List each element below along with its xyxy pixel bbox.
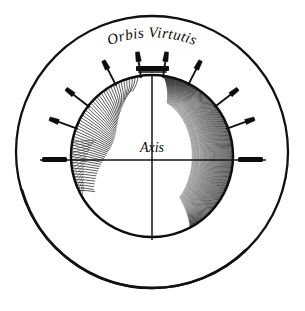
rod-head xyxy=(49,117,59,125)
rod-head xyxy=(102,60,110,71)
pivot-block-left xyxy=(42,157,67,162)
rod-head xyxy=(194,60,202,71)
rod-head xyxy=(163,52,169,62)
outer-ring-label: Orbis Virtutis xyxy=(105,24,199,48)
outer-ring-label-textpath: Orbis Virtutis xyxy=(105,24,199,48)
pivot-block-right xyxy=(238,157,263,162)
rod-head xyxy=(135,52,141,62)
engraving-figure: Orbis Virtutis Axis xyxy=(0,0,305,311)
pole-cap-bar-shadow xyxy=(138,71,167,73)
axis-label: Axis xyxy=(139,140,165,155)
rod-head xyxy=(245,117,255,125)
terrella-diagram: Orbis Virtutis Axis xyxy=(0,0,305,311)
